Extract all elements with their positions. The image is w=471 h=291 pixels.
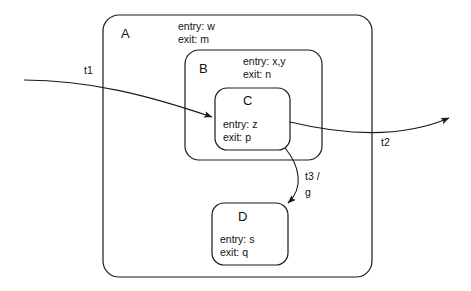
state-d-label: D bbox=[238, 209, 247, 224]
state-a-entry: entry: w bbox=[178, 20, 215, 32]
state-a-exit: exit: m bbox=[178, 33, 209, 45]
transition-t3-label-line2: g bbox=[305, 186, 311, 198]
state-c-exit: exit: p bbox=[223, 131, 251, 143]
statechart-svg: A entry: w exit: m B entry: x,y exit: n … bbox=[0, 0, 471, 291]
state-d-entry: entry: s bbox=[220, 233, 254, 245]
state-d[interactable]: D entry: s exit: q bbox=[212, 203, 288, 265]
state-a-label: A bbox=[121, 26, 130, 41]
transition-t2-label: t2 bbox=[381, 136, 390, 148]
transition-t1-label: t1 bbox=[84, 64, 93, 76]
state-d-exit: exit: q bbox=[220, 246, 248, 258]
transition-t3-label-line1: t3 / bbox=[305, 170, 320, 182]
statechart-canvas: A entry: w exit: m B entry: x,y exit: n … bbox=[0, 0, 471, 291]
state-c-entry: entry: z bbox=[223, 118, 257, 130]
state-c-label: C bbox=[243, 93, 252, 108]
state-c[interactable]: C entry: z exit: p bbox=[215, 88, 290, 150]
state-b-entry: entry: x,y bbox=[243, 55, 286, 67]
state-b-label: B bbox=[199, 61, 208, 76]
state-b-exit: exit: n bbox=[243, 68, 271, 80]
